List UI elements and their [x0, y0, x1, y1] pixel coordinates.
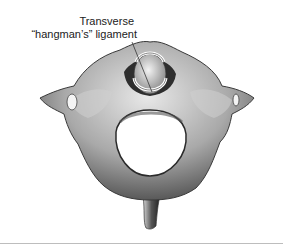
- bottom-divider: [0, 243, 283, 244]
- ligament-label-line1: Transverse: [79, 15, 134, 28]
- ligament-label-line2: “hangman’s” ligament: [31, 28, 137, 41]
